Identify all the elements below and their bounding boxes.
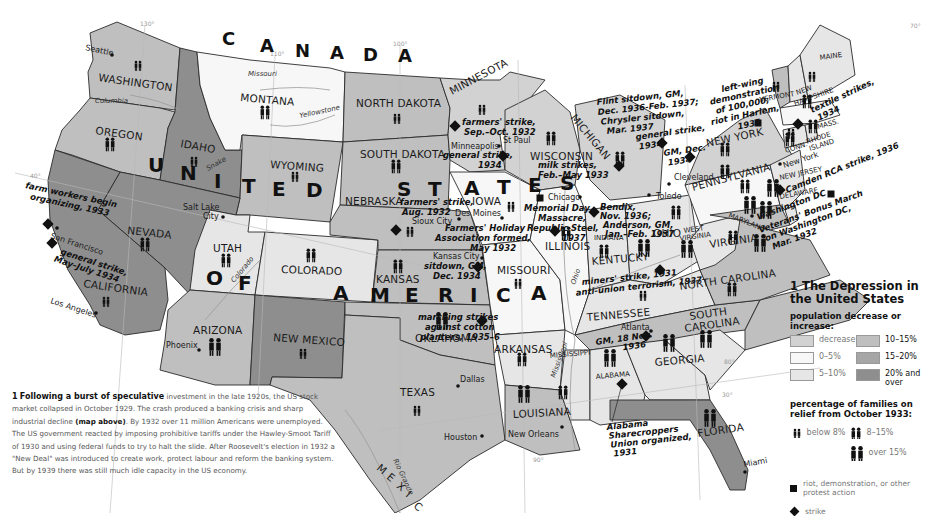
svg-text:A: A [330, 42, 344, 63]
svg-text:E: E [272, 177, 286, 201]
svg-text:F: F [238, 271, 252, 295]
label-arizona: ARIZONA [193, 324, 243, 336]
svg-text:N: N [295, 40, 310, 61]
bin-20-over: 20% and over [856, 369, 926, 387]
svg-text:A: A [333, 281, 349, 305]
relief-8-15-icon [848, 425, 864, 439]
svg-text:M: M [370, 283, 390, 307]
svg-text:A: A [531, 281, 547, 305]
riot-icon [828, 191, 835, 198]
svg-text:farmers' strike,Sep.–Oct. 1932: farmers' strike,Sep.–Oct. 1932 [462, 117, 536, 137]
svg-text:D: D [306, 178, 323, 202]
city-salt-lake-2: City [203, 212, 219, 221]
label-colorado: COLORADO [281, 263, 343, 277]
bin-5-10: 5–10% [790, 369, 856, 387]
city-houston: Houston [444, 433, 477, 442]
svg-text:U: U [148, 153, 164, 177]
label-utah: UTAH [213, 242, 242, 254]
svg-text:A: A [260, 35, 274, 56]
river-missouri: Missouri [248, 70, 277, 78]
river-columbia: Columbia [95, 97, 128, 105]
label-north-dakota: NORTH DAKOTA [356, 97, 442, 109]
population-heading: population decrease or increase: [790, 311, 933, 331]
bin-decrease: decrease [790, 335, 856, 347]
relief-over-15-icon [848, 443, 866, 461]
legend-riot: riot, demonstration, or other protest ac… [790, 479, 933, 497]
label-texas: TEXAS [399, 386, 435, 398]
label-iowa: IOWA [472, 195, 502, 207]
svg-text:I: I [214, 169, 221, 193]
svg-text:D: D [363, 44, 378, 65]
bin-0-5: 0–5% [790, 352, 856, 364]
bin-15-20: 15–20% [856, 352, 926, 364]
relief-below-8-icon [790, 426, 804, 438]
longitude-130: 130° [140, 20, 154, 27]
relief-heading: percentage of families on relief from Oc… [790, 399, 933, 419]
label-missouri: MISSOURI [497, 264, 550, 276]
svg-text:C: C [496, 283, 511, 307]
city-salt-lake-1: Salt Lake [183, 203, 220, 212]
map-legend: 1 The Depression in the United States po… [790, 280, 933, 516]
riot-icon [537, 195, 544, 202]
caption: 1 Following a burst of speculative inves… [12, 391, 337, 478]
latitude-40: 40° [30, 172, 41, 179]
city-miami: Miami [743, 456, 768, 469]
svg-text:R: R [438, 283, 453, 307]
legend-strike: strike [790, 507, 933, 516]
svg-text:E: E [405, 283, 419, 307]
legend-title: 1 The Depression in the United States [790, 280, 933, 306]
population-bins: decrease 10–15% 0–5% 15–20% 5–10% 20% an… [790, 335, 933, 387]
relief-below-8: below 8% [790, 425, 848, 439]
relief-over-15: over 15% [848, 443, 907, 461]
city-kansas-city: Kansas City [433, 252, 480, 261]
city-dallas: Dallas [460, 375, 485, 384]
label-kansas: KANSAS [376, 273, 420, 285]
relief-8-15: 8–15% [848, 425, 918, 439]
svg-text:N: N [180, 161, 197, 185]
city-toledo: Toledo [655, 192, 682, 201]
svg-text:O: O [206, 266, 223, 290]
city-st-paul: St Paul [503, 136, 530, 145]
riot-icon [790, 485, 797, 492]
city-des-moines: Des Moines [455, 209, 501, 218]
longitude-90: 90° [533, 456, 544, 463]
state-arizona[interactable] [160, 290, 255, 385]
city-cleveland: Cleveland [674, 173, 714, 182]
city-chicago: Chicago [548, 193, 580, 202]
svg-text:sitdown, GM,Dec. 1934: sitdown, GM,Dec. 1934 [424, 261, 487, 281]
city-new-orleans: New Orleans [508, 430, 559, 439]
longitude-70: 70° [910, 22, 921, 29]
label-nebraska: NEBRASKA [345, 195, 404, 207]
strike-icon [790, 507, 800, 516]
svg-text:T: T [242, 174, 256, 198]
svg-text:I: I [470, 283, 477, 307]
city-phoenix: Phoenix [166, 341, 198, 350]
bin-10-15: 10–15% [856, 335, 926, 347]
label-south-dakota: SOUTH DAKOTA [360, 148, 446, 160]
relief-bins: below 8% 8–15% over 15% [790, 425, 933, 461]
longitude-80: 80° [724, 358, 735, 365]
latitude-30: 30° [722, 391, 733, 398]
svg-text:A: A [398, 45, 412, 66]
svg-text:C: C [222, 28, 235, 49]
svg-text:marching strikesagainst cotton: marching strikesagainst cottonplanters, … [418, 312, 500, 342]
